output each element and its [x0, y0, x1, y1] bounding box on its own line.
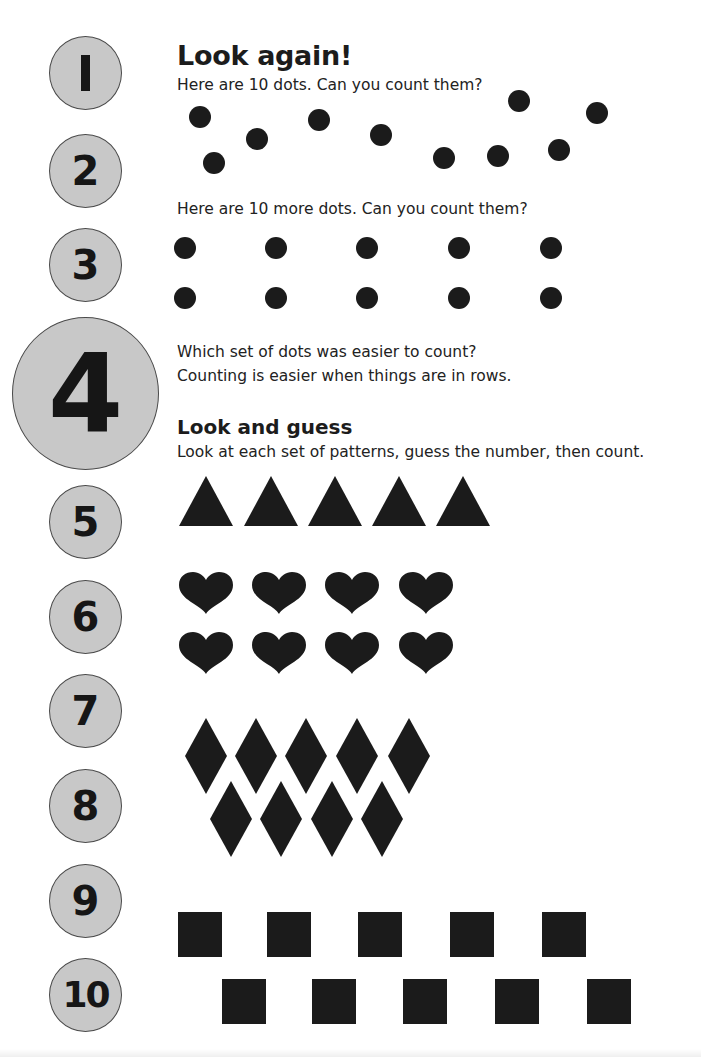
heart-icon [252, 632, 306, 674]
dot [487, 145, 509, 167]
heart-icon [399, 632, 453, 674]
number-circle-9: 9 [49, 864, 122, 938]
dot [433, 147, 455, 169]
number-circle-1 [49, 36, 122, 110]
diamond-shape [311, 781, 353, 857]
square-shape [495, 979, 539, 1024]
square-shape [312, 979, 356, 1024]
square-shape [358, 912, 402, 957]
dot [540, 237, 562, 259]
number-circle-8: 8 [49, 769, 122, 843]
triangle-shape [244, 476, 298, 526]
dot [586, 102, 608, 124]
section-instruction: Look at each set of patterns, guess the … [177, 443, 644, 461]
dot [265, 237, 287, 259]
number-circle-5: 5 [49, 485, 122, 559]
scattered-dots-prompt: Here are 10 dots. Can you count them? [177, 76, 483, 94]
heart-icon [399, 572, 453, 614]
diamond-shape [210, 781, 252, 857]
page-edge [0, 1049, 701, 1057]
number-one-glyph [81, 55, 90, 91]
number-circle-3: 3 [49, 228, 122, 302]
number-circle-10: 10 [49, 958, 122, 1032]
dot [265, 287, 287, 309]
number-circle-6: 6 [49, 580, 122, 654]
dot [174, 237, 196, 259]
square-shape [403, 979, 447, 1024]
dot [540, 287, 562, 309]
number-circle-4: 4 [12, 317, 159, 470]
square-shape [267, 912, 311, 957]
triangle-shape [372, 476, 426, 526]
dot [448, 237, 470, 259]
section-title: Look and guess [177, 415, 352, 439]
dot [308, 109, 330, 131]
dot [356, 287, 378, 309]
dot [189, 106, 211, 128]
number-circle-7: 7 [49, 674, 122, 748]
triangle-shape [436, 476, 490, 526]
heart-icon [325, 572, 379, 614]
page-title: Look again! [177, 40, 352, 71]
triangle-shape [179, 476, 233, 526]
row-dots-prompt: Here are 10 more dots. Can you count the… [177, 200, 528, 218]
triangle-shape [308, 476, 362, 526]
diamond-shape [260, 781, 302, 857]
heart-icon [252, 572, 306, 614]
heart-icon [179, 632, 233, 674]
dot [174, 287, 196, 309]
square-shape [450, 912, 494, 957]
heart-icon [179, 572, 233, 614]
comparison-explanation: Counting is easier when things are in ro… [177, 367, 511, 385]
dot [246, 128, 268, 150]
heart-icon [325, 632, 379, 674]
square-shape [587, 979, 631, 1024]
square-shape [178, 912, 222, 957]
comparison-question: Which set of dots was easier to count? [177, 343, 477, 361]
square-shape [542, 912, 586, 957]
dot [203, 152, 225, 174]
dot [370, 124, 392, 146]
diamond-shape [361, 781, 403, 857]
dot [508, 90, 530, 112]
dot [448, 287, 470, 309]
dot [548, 139, 570, 161]
dot [356, 237, 378, 259]
square-shape [222, 979, 266, 1024]
number-circle-2: 2 [49, 134, 122, 208]
